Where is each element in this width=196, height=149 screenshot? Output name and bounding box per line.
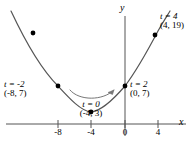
x-tick-label-minus-4: -4: [83, 128, 99, 137]
annotation-t-4: t = 4 (4, 19): [160, 12, 184, 31]
annotation-t-2-coord: (0, 7): [130, 89, 150, 98]
parametric-curve-figure: y x -8 -4 0 4 t = -2 (-8, 7) t = 0 (-4, …: [0, 0, 196, 149]
x-tick-label-4: 4: [152, 128, 164, 137]
curve-point-t-2: [123, 84, 128, 89]
x-tick-label-0: 0: [119, 128, 131, 137]
annotation-t-2: t = 2 (0, 7): [130, 80, 150, 99]
annotation-t-4-coord: (4, 19): [160, 21, 184, 30]
x-tick-label-minus-8: -8: [50, 128, 66, 137]
orientation-arrow: [70, 90, 114, 98]
curve-point-unlabeled-left: [31, 31, 36, 36]
annotation-t-0: t = 0 (-4, 3): [62, 100, 120, 119]
curve-point-t-minus-2: [56, 84, 61, 89]
annotation-t-0-coord: (-4, 3): [80, 109, 103, 118]
y-axis-label: y: [120, 3, 124, 14]
curve-point-t-4: [153, 33, 158, 38]
annotation-t-minus-2-coord: (-8, 7): [4, 89, 27, 98]
annotation-t-minus-2: t = -2 (-8, 7): [4, 80, 27, 99]
x-axis-label: x: [179, 117, 183, 128]
